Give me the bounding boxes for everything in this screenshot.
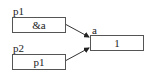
- node-label-p1: p1: [13, 6, 24, 17]
- arrow-p1-to-a: [65, 24, 89, 37]
- node-box-p2: p1: [12, 54, 66, 70]
- node-value-p2: p1: [34, 56, 45, 68]
- node-value-a: 1: [114, 37, 120, 49]
- node-box-p1: &a: [12, 17, 66, 33]
- node-value-p1: &a: [32, 19, 45, 31]
- node-label-p2: p2: [13, 43, 24, 54]
- node-box-a: 1: [90, 35, 144, 51]
- arrow-p2-to-a: [65, 48, 89, 61]
